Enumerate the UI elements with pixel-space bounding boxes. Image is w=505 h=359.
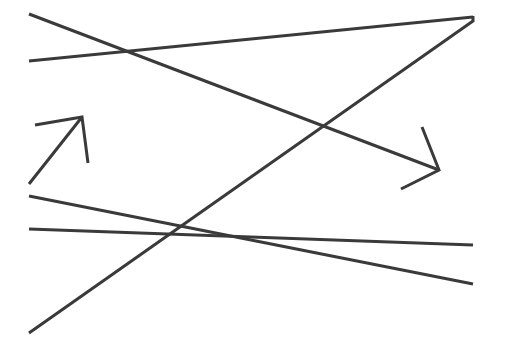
background <box>0 0 505 359</box>
line-diagram-canvas <box>0 0 505 359</box>
